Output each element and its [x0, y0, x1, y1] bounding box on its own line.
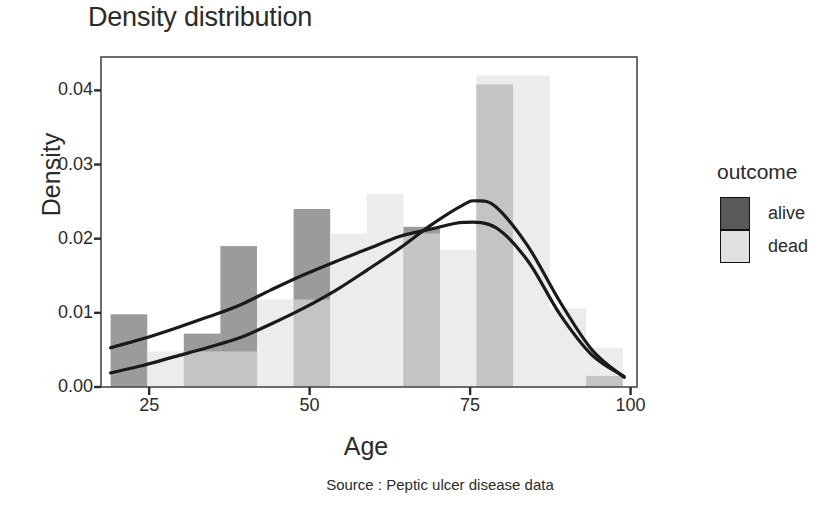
legend-title: outcome: [717, 160, 798, 184]
histogram-bar-alive: [111, 314, 148, 387]
histogram-bar-dead: [257, 299, 294, 387]
histogram-bar-dead: [550, 308, 587, 387]
histogram-bar-dead: [184, 351, 221, 387]
legend-swatch-dead[interactable]: [720, 230, 750, 263]
legend-swatch-alive[interactable]: [720, 197, 750, 230]
histogram-bar-dead: [367, 194, 404, 387]
legend-label-dead: dead: [768, 236, 808, 257]
histogram-bar-dead: [294, 299, 331, 387]
histogram-bar-dead: [477, 76, 514, 387]
histogram-bar-dead: [403, 233, 440, 387]
histogram-bar-dead: [440, 250, 477, 387]
legend-label-alive: alive: [768, 203, 805, 224]
histogram-bar-dead: [220, 351, 257, 387]
density-distribution-figure: Density distribution Density Age Source …: [0, 0, 832, 519]
plot-area: [0, 0, 832, 519]
